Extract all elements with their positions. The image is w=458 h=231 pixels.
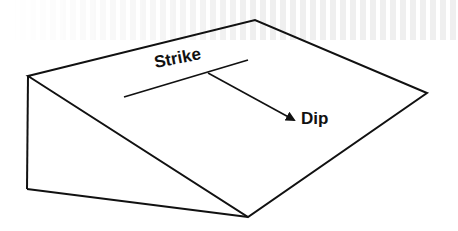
dip-label: Dip xyxy=(301,110,328,127)
wedge-block-figure xyxy=(0,0,458,231)
dip-arrow xyxy=(208,73,294,120)
inclined-plane xyxy=(28,20,427,217)
diagram-canvas: Strike Dip xyxy=(0,0,458,231)
side-face-vertical-edge xyxy=(27,76,28,189)
side-face-bottom-edge xyxy=(27,189,248,217)
